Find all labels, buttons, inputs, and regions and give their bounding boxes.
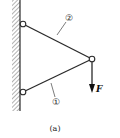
truss-diagram: ② ① F (a): [0, 0, 120, 138]
member-2-label: ②: [65, 13, 73, 23]
figure-caption: (a): [49, 124, 60, 133]
member-1-bar: [23, 59, 92, 92]
arrowhead-icon: [89, 84, 95, 93]
force-arrow: [89, 59, 95, 93]
member-2-leader: [57, 22, 66, 35]
member-2-bar: [23, 24, 92, 59]
wall-support: [12, 0, 20, 111]
end-pin-joint: [89, 56, 95, 62]
member-1-leader: [51, 83, 55, 97]
top-pin-joint: [20, 21, 26, 27]
force-label: F: [95, 84, 103, 94]
bottom-pin-joint: [20, 89, 26, 95]
member-1-label: ①: [52, 97, 60, 107]
wall-hatch: [12, 0, 20, 111]
